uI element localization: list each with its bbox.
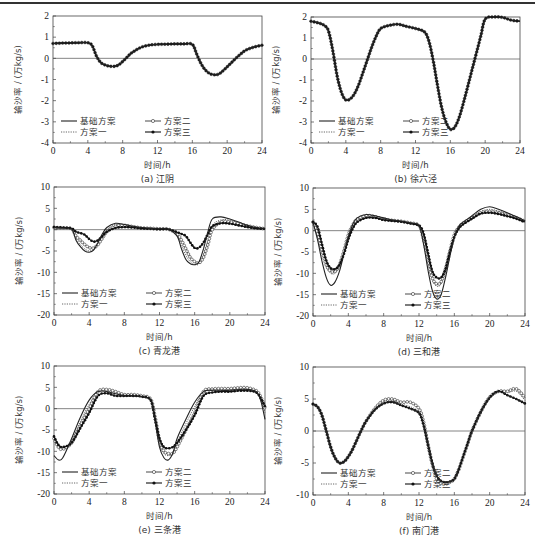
- y-tick-label: 5: [304, 394, 309, 404]
- panel-caption: (f) 南门港: [399, 525, 439, 536]
- chart-svg: 04812162024-10-50510基础方案方案一方案二方案三输沙率 / (…: [0, 0, 547, 555]
- y-tick-label: -10: [296, 490, 309, 500]
- legend-label: 方案三: [424, 479, 451, 489]
- x-tick-label: 8: [381, 498, 386, 508]
- x-axis-label: 时间/h: [406, 512, 432, 522]
- y-tick-label: 0: [304, 426, 309, 436]
- legend-label: 方案一: [340, 479, 367, 489]
- x-tick-label: 12: [414, 498, 424, 508]
- legend-label: 基础方案: [340, 468, 376, 478]
- x-tick-label: 16: [450, 498, 460, 508]
- x-tick-label: 24: [520, 498, 530, 508]
- y-axis-label: 输沙率 / (万kg/s): [273, 397, 283, 466]
- x-tick-label: 4: [346, 498, 351, 508]
- legend-label: 方案二: [424, 468, 451, 478]
- x-tick-label: 20: [485, 498, 495, 508]
- y-tick-label: 10: [300, 362, 310, 372]
- legend: 基础方案方案一方案二方案三: [321, 468, 451, 489]
- x-tick-label: 0: [311, 498, 316, 508]
- y-tick-label: -5: [301, 458, 309, 468]
